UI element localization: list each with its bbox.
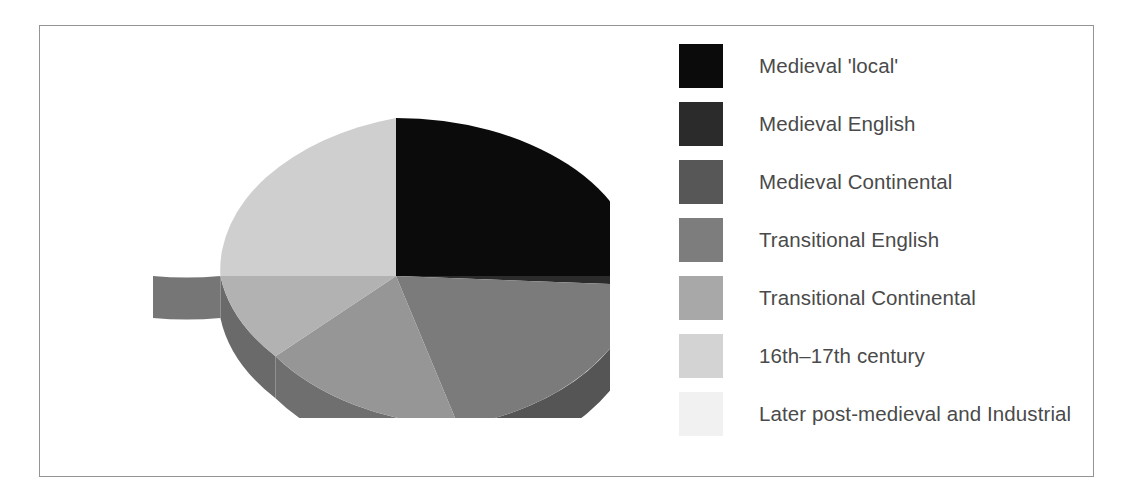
legend-swatch-later-post-medieval-and-industrial [679, 392, 723, 436]
legend-label-later-post-medieval-and-industrial: Later post-medieval and Industrial [759, 404, 1071, 425]
legend-swatch-transitional-continental [679, 276, 723, 320]
legend-swatch-medieval-english [679, 102, 723, 146]
pie-slice-16th-17th-century [220, 118, 396, 276]
legend-label-medieval-english: Medieval English [759, 114, 916, 135]
legend-swatch-medieval-continental [679, 160, 723, 204]
pie-slice-medieval-local [396, 118, 610, 276]
legend-label-transitional-english: Transitional English [759, 230, 939, 251]
pie-side-16th-17th-century [153, 276, 220, 320]
legend-item-16th-17th-century[interactable]: 16th–17th century [679, 327, 1079, 385]
pie-chart-svg [110, 68, 610, 418]
legend-item-medieval-local[interactable]: Medieval 'local' [679, 37, 1079, 95]
legend-label-16th-17th-century: 16th–17th century [759, 346, 925, 367]
legend-item-medieval-english[interactable]: Medieval English [679, 95, 1079, 153]
legend-item-later-post-medieval-and-industrial[interactable]: Later post-medieval and Industrial [679, 385, 1079, 443]
legend-swatch-16th-17th-century [679, 334, 723, 378]
pie-chart-3d [110, 68, 610, 418]
legend-label-medieval-continental: Medieval Continental [759, 172, 952, 193]
legend-swatch-medieval-local [679, 44, 723, 88]
legend-item-medieval-continental[interactable]: Medieval Continental [679, 153, 1079, 211]
legend-swatch-transitional-english [679, 218, 723, 262]
legend-item-transitional-continental[interactable]: Transitional Continental [679, 269, 1079, 327]
legend-item-transitional-english[interactable]: Transitional English [679, 211, 1079, 269]
legend-label-transitional-continental: Transitional Continental [759, 288, 976, 309]
legend-label-medieval-local: Medieval 'local' [759, 56, 898, 77]
chart-legend: Medieval 'local' Medieval English Mediev… [679, 37, 1079, 443]
figure-frame: Medieval 'local' Medieval English Mediev… [39, 25, 1094, 477]
